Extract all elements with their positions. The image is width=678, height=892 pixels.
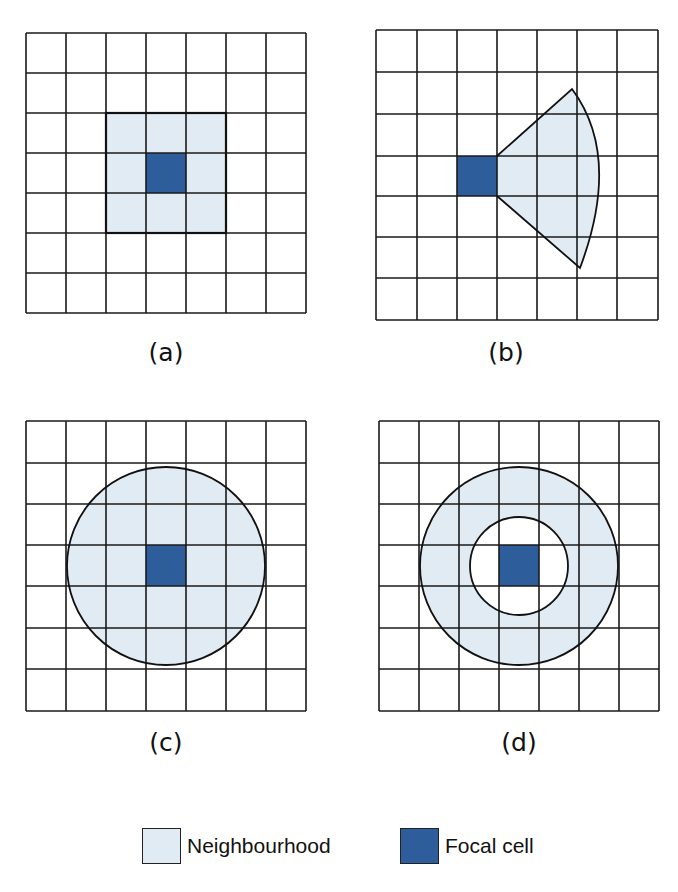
panel-a-square-neighbourhood [26, 33, 306, 313]
legend-item-neighbourhood: Neighbourhood [142, 828, 331, 864]
grid-d [379, 421, 659, 711]
grid-c [26, 421, 306, 711]
caption-a: (a) [126, 338, 206, 367]
focal-cell [457, 156, 497, 196]
focal-cell [146, 545, 186, 586]
focal-cell-swatch [400, 828, 439, 864]
legend-label-focal-cell: Focal cell [445, 834, 534, 858]
panel-c-circle-neighbourhood [26, 421, 306, 711]
caption-b: (b) [466, 338, 546, 367]
grid-a [26, 33, 306, 313]
legend-item-focal-cell: Focal cell [400, 828, 534, 864]
grid-b [376, 30, 658, 320]
caption-d: (d) [479, 728, 559, 757]
panel-d-annulus-neighbourhood [379, 421, 659, 711]
focal-cell [499, 545, 539, 586]
caption-c: (c) [126, 728, 206, 757]
panel-b-wedge-neighbourhood [376, 30, 658, 320]
legend: Neighbourhood Focal cell [0, 828, 678, 872]
focal-cell [146, 153, 186, 193]
neighbourhood-swatch [142, 828, 181, 864]
legend-label-neighbourhood: Neighbourhood [187, 834, 331, 858]
